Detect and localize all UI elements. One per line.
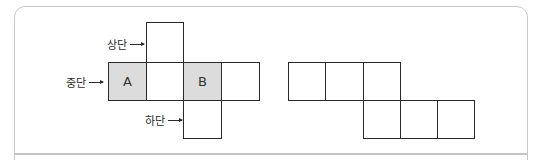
net2-cell <box>400 100 438 139</box>
label-middle: 중단 <box>66 74 103 90</box>
net2-cell <box>288 62 326 101</box>
label-top-text: 상단 <box>107 36 127 52</box>
arrow-right-icon <box>89 82 103 83</box>
arrow-right-icon <box>130 44 144 45</box>
net2-cell <box>437 100 475 139</box>
label-bottom: 하단 <box>145 112 182 128</box>
arrow-right-icon <box>168 120 182 121</box>
net1-bottom-cell <box>183 100 222 139</box>
net1-cell-b: B <box>183 62 222 101</box>
net1-middle-cell-4 <box>221 62 260 101</box>
label-middle-text: 중단 <box>66 74 86 90</box>
net2-cell <box>325 62 364 101</box>
label-bottom-text: 하단 <box>145 112 165 128</box>
label-top: 상단 <box>107 36 144 52</box>
net2-cell <box>363 100 401 139</box>
net1-cell-a: A <box>108 62 147 101</box>
frame-divider <box>14 153 528 155</box>
net1-middle-cell-2 <box>146 62 184 101</box>
net2-cell <box>363 62 401 101</box>
net1-top-cell <box>146 22 184 63</box>
